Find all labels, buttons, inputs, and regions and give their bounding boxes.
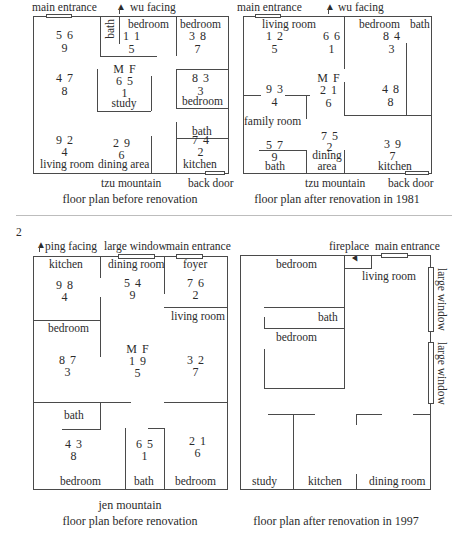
fireplace-label: fireplace xyxy=(329,240,369,252)
north-arrow-icon: ▲ xyxy=(116,2,126,12)
outer-wall-bottom xyxy=(240,489,431,490)
wall xyxy=(264,328,344,329)
number-pair: 2 1 xyxy=(320,84,338,96)
large-window-label: large window xyxy=(436,268,448,331)
room-kitchen: kitchen xyxy=(183,158,217,170)
wall xyxy=(97,69,98,111)
number-single: 4 xyxy=(62,146,69,158)
plan-caption: floor plan before renovation xyxy=(63,192,198,207)
plan-caption: floor plan before renovation xyxy=(63,514,198,529)
number-pair: 1 1 xyxy=(123,30,141,42)
wall xyxy=(176,69,177,109)
large-window-label: large window xyxy=(104,240,167,252)
wall xyxy=(344,268,345,389)
wall xyxy=(125,428,126,490)
back-door-label: back door xyxy=(388,177,434,189)
wall xyxy=(151,136,152,173)
number-single: 1 xyxy=(122,87,129,99)
room-family-room: family room xyxy=(244,115,301,127)
room-foyer: foyer xyxy=(183,258,207,270)
number-single: 1 xyxy=(142,450,149,462)
outer-wall-left xyxy=(240,255,241,490)
wall xyxy=(356,474,357,490)
facing-label: wu facing xyxy=(338,1,384,13)
number-pair: 3 8 xyxy=(189,30,207,42)
wall xyxy=(100,16,101,56)
room-dining-area: area xyxy=(317,160,336,172)
fireplace-wall xyxy=(344,255,345,269)
room-bath: bath xyxy=(134,475,154,487)
room-bath: bath xyxy=(318,311,338,323)
number-single: 9 xyxy=(130,289,137,301)
arrow-stem xyxy=(328,8,329,14)
wall xyxy=(243,95,261,96)
number-single: 8 xyxy=(62,85,69,97)
wall xyxy=(176,16,177,56)
room-bath: bath xyxy=(410,18,430,30)
wall xyxy=(344,115,432,116)
wall xyxy=(344,150,345,173)
main-entrance-label: main entrance xyxy=(237,1,302,13)
number-single: 2 xyxy=(198,146,205,158)
room-dining-room: dining room xyxy=(369,475,426,487)
number-pair: 8 4 xyxy=(383,30,401,42)
wall xyxy=(100,256,101,278)
back-door-label: back door xyxy=(188,177,234,189)
number-single: 3 xyxy=(198,85,205,97)
wall xyxy=(164,428,165,490)
room-living-room: living room xyxy=(362,270,416,282)
number-single: 6 xyxy=(119,149,126,161)
outer-wall-left xyxy=(33,16,34,174)
facing-label: ping facing xyxy=(45,240,97,252)
large-window xyxy=(428,267,434,332)
wall xyxy=(97,111,151,112)
back-door xyxy=(205,171,225,175)
arrow-stem xyxy=(39,246,40,252)
figure-number: 2 xyxy=(16,226,22,238)
wall xyxy=(164,402,228,403)
number-single: 7 xyxy=(193,366,200,378)
main-entrance-label: main entrance xyxy=(32,1,97,13)
fireplace-wall xyxy=(371,255,372,269)
outer-wall-bottom xyxy=(243,173,432,174)
wall xyxy=(148,428,165,429)
number-single: 6 xyxy=(326,97,333,109)
number-pair: 8 3 xyxy=(192,72,210,84)
wall xyxy=(344,16,345,69)
wall xyxy=(293,414,294,490)
room-bedroom: bedroom xyxy=(276,258,317,270)
wall xyxy=(406,43,407,115)
plan-caption: floor plan after renovation in 1997 xyxy=(253,514,419,529)
wall xyxy=(164,307,228,308)
number-single: 7 xyxy=(390,150,397,162)
wall xyxy=(306,95,307,119)
number-single: 5 xyxy=(129,43,136,55)
room-living-room: living room xyxy=(171,310,225,322)
number-single: 9 xyxy=(272,151,279,163)
wall xyxy=(176,122,177,173)
outer-wall-left xyxy=(33,256,34,490)
wall xyxy=(413,414,430,415)
wall xyxy=(264,307,344,308)
outer-wall-right xyxy=(431,16,432,174)
wall xyxy=(356,414,382,415)
room-kitchen: kitchen xyxy=(308,475,342,487)
number-single: 3 xyxy=(389,43,396,55)
outer-wall-right xyxy=(228,16,229,174)
number-single: 6 xyxy=(195,447,202,459)
room-bedroom: bedroom xyxy=(276,331,317,343)
wall xyxy=(100,297,101,357)
mountain-label: jen mountain xyxy=(99,498,162,513)
wall xyxy=(176,108,228,109)
number-single: 2 xyxy=(327,141,334,153)
large-window-label: large window xyxy=(436,342,448,405)
number-single: 5 xyxy=(272,43,279,55)
number-pair: 4 7 xyxy=(56,72,74,84)
number-single: 9 xyxy=(62,42,69,54)
number-single: 5 xyxy=(135,367,142,379)
wall xyxy=(344,82,345,115)
wall xyxy=(119,16,120,44)
facing-label: wu facing xyxy=(130,1,176,13)
mountain-label: tzu mountain xyxy=(305,177,365,189)
wall xyxy=(33,402,131,403)
